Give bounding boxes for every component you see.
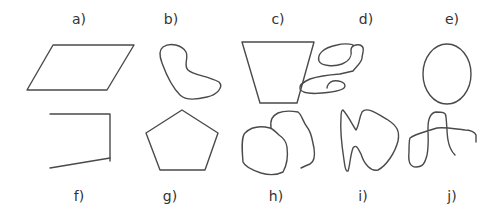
shape-f-bottom-line xyxy=(50,158,110,168)
shape-j-scribble xyxy=(409,112,476,167)
shape-g-pentagon xyxy=(146,110,218,170)
label-g: g) xyxy=(163,189,177,203)
shape-e-ellipse xyxy=(423,44,471,104)
shapes-figure: a) b) c) d) e) f) g) h) i) j) xyxy=(0,0,498,214)
shape-h-closed-loop xyxy=(242,127,287,175)
label-a: a) xyxy=(72,12,86,26)
label-f: f) xyxy=(74,189,84,203)
label-d: d) xyxy=(359,12,373,26)
label-c: c) xyxy=(271,12,284,26)
label-e: e) xyxy=(445,12,459,26)
shape-h-open-arc xyxy=(271,111,315,168)
shape-i-irregular-shape xyxy=(341,110,399,171)
label-i: i) xyxy=(358,189,367,203)
label-j: j) xyxy=(447,189,456,203)
shape-b-blob xyxy=(160,45,221,100)
label-h: h) xyxy=(269,189,283,203)
shapes-drawing xyxy=(0,0,498,214)
label-b: b) xyxy=(164,12,178,26)
shape-a-parallelogram xyxy=(27,45,134,90)
shape-f-open-polyline xyxy=(50,114,110,161)
shape-d-scribble xyxy=(300,44,363,93)
shape-c-trapezoid xyxy=(242,42,314,103)
